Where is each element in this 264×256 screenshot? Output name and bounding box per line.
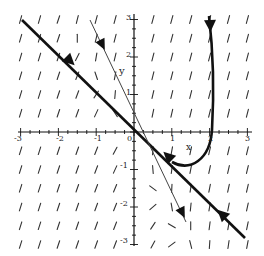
y-axis-label: y: [119, 66, 125, 76]
x-tick-label: -1: [94, 135, 102, 143]
x-tick-label: 2: [208, 135, 213, 143]
x-tick-label: 0: [127, 135, 132, 143]
phase-plane-plot: [0, 0, 264, 256]
thin-eigenline: [90, 20, 186, 222]
x-tick-label: -2: [56, 135, 64, 143]
y-tick-label: -1: [120, 162, 128, 170]
curved-solution: [172, 16, 213, 165]
arrow-icon: [204, 20, 216, 32]
y-tick-label: -2: [120, 200, 128, 208]
y-tick-label: -3: [120, 237, 128, 245]
y-tick-label: 1: [126, 89, 131, 97]
x-tick-label: 3: [245, 135, 250, 143]
x-axis-label: x: [186, 143, 191, 152]
y-tick-label: 2: [126, 51, 131, 59]
arrow-icon: [176, 206, 190, 220]
y-tick-label: 3: [126, 14, 131, 22]
x-tick-label: 1: [170, 135, 175, 143]
arrow-icon: [96, 38, 110, 52]
x-tick-label: -3: [14, 135, 22, 143]
